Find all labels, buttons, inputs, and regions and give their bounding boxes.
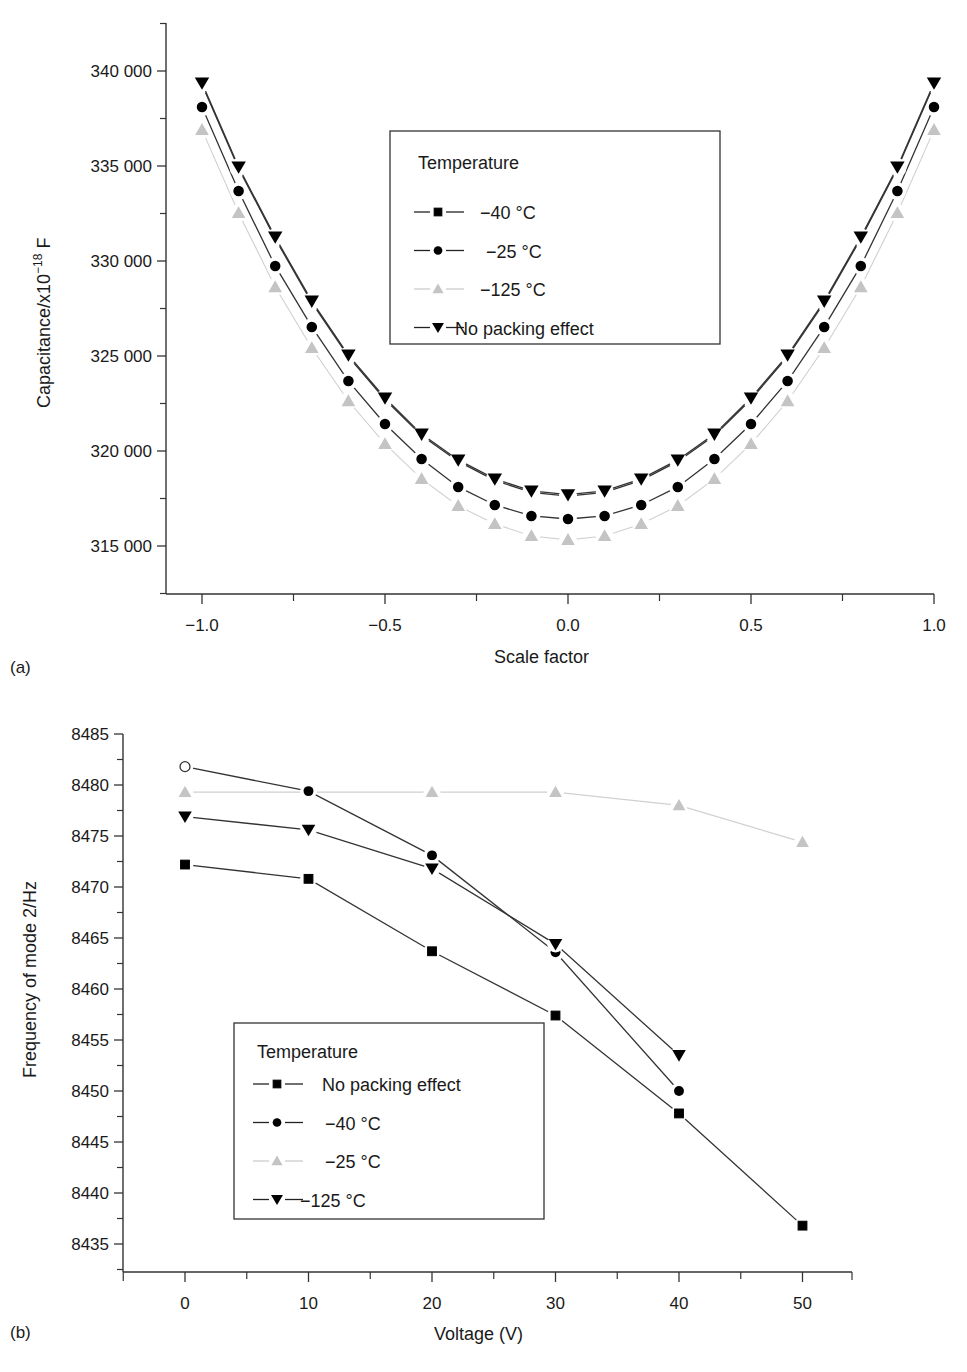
data-point-circle	[599, 511, 610, 522]
data-point-circle	[343, 376, 354, 387]
data-point-circle	[709, 454, 720, 465]
x-tick-label: 30	[546, 1294, 565, 1313]
x-tick-label: −0.5	[368, 616, 402, 635]
data-point-circle	[782, 376, 793, 387]
data-point-square	[675, 1109, 684, 1118]
data-point-circle	[307, 322, 318, 333]
data-point-circle	[490, 500, 501, 511]
x-axis-title-b: Voltage (V)	[434, 1324, 523, 1344]
data-point-circle	[526, 511, 537, 522]
data-point-circle	[636, 500, 647, 511]
y-axis-title-a: Capacitance/x10−18 F	[31, 238, 54, 408]
legend-marker-square	[434, 208, 442, 216]
y-axis-title-b: Frequency of mode 2/Hz	[20, 881, 40, 1078]
data-point-square	[798, 1221, 807, 1230]
panel-label-b: (b)	[10, 1323, 31, 1342]
data-point-circle	[197, 102, 208, 113]
y-tick-label: 315 000	[91, 537, 152, 556]
x-tick-label: 0.5	[739, 616, 763, 635]
data-point-square	[428, 947, 437, 956]
legend-label: No packing effect	[455, 319, 594, 339]
legend-marker-circle	[273, 1118, 282, 1127]
x-tick-label: 40	[670, 1294, 689, 1313]
data-point-circle	[180, 762, 190, 772]
y-tick-label: 8475	[71, 827, 109, 846]
figure: 315 000320 000325 000330 000335 000340 0…	[0, 0, 967, 1372]
data-point-circle	[304, 786, 314, 796]
legend-title: Temperature	[257, 1042, 358, 1062]
y-tick-label: 8455	[71, 1031, 109, 1050]
y-tick-label: 330 000	[91, 252, 152, 271]
legend-label: −25 °C	[486, 242, 542, 262]
x-tick-label: 50	[793, 1294, 812, 1313]
legend-marker-circle	[434, 246, 443, 255]
legend-label: −40 °C	[480, 203, 536, 223]
y-tick-label: 8480	[71, 776, 109, 795]
panel-label-a: (a)	[10, 658, 31, 677]
series-triangle-up	[177, 784, 811, 851]
data-point-circle	[427, 850, 437, 860]
data-point-circle	[563, 514, 574, 525]
data-point-circle	[892, 186, 903, 197]
data-point-circle	[416, 454, 427, 465]
chart-panel-b: 8435844084458450845584608465847084758480…	[10, 725, 852, 1344]
data-point-square	[551, 1011, 560, 1020]
y-tick-label: 325 000	[91, 347, 152, 366]
y-tick-label: 340 000	[91, 62, 152, 81]
y-tick-label: 8465	[71, 929, 109, 948]
data-point-circle	[673, 482, 684, 493]
data-point-circle	[453, 482, 464, 493]
data-point-circle	[380, 419, 391, 430]
x-tick-label: 1.0	[922, 616, 946, 635]
y-tick-label: 335 000	[91, 157, 152, 176]
legend-marker-square	[273, 1080, 281, 1088]
x-axis-title-a: Scale factor	[494, 647, 589, 667]
x-tick-label: −1.0	[185, 616, 219, 635]
data-point-square	[181, 860, 190, 869]
data-point-circle	[856, 261, 867, 272]
legend-label: −40 °C	[325, 1114, 381, 1134]
legend-label: −25 °C	[325, 1152, 381, 1172]
x-tick-label: 10	[299, 1294, 318, 1313]
series-line	[185, 792, 803, 842]
data-point-circle	[270, 261, 281, 272]
y-tick-label: 320 000	[91, 442, 152, 461]
y-tick-label: 8435	[71, 1235, 109, 1254]
y-tick-label: 8450	[71, 1082, 109, 1101]
legend-label: −125 °C	[300, 1191, 366, 1211]
legend-label: No packing effect	[322, 1075, 461, 1095]
chart-panel-a: 315 000320 000325 000330 000335 000340 0…	[10, 23, 946, 677]
x-tick-label: 0.0	[556, 616, 580, 635]
x-tick-label: 20	[423, 1294, 442, 1313]
data-point-square	[304, 874, 313, 883]
x-tick-label: 0	[180, 1294, 189, 1313]
y-tick-label: 8485	[71, 725, 109, 744]
legend-title: Temperature	[418, 153, 519, 173]
y-tick-label: 8445	[71, 1133, 109, 1152]
y-tick-label: 8440	[71, 1184, 109, 1203]
y-tick-label: 8470	[71, 878, 109, 897]
legend-label: −125 °C	[480, 280, 546, 300]
data-point-circle	[233, 186, 244, 197]
legend-a: Temperature−40 °C−25 °C−125 °CNo packing…	[390, 131, 720, 344]
data-point-circle	[929, 102, 940, 113]
data-point-circle	[819, 322, 830, 333]
legend-b: TemperatureNo packing effect−40 °C−25 °C…	[234, 1023, 544, 1219]
y-tick-label: 8460	[71, 980, 109, 999]
data-point-circle	[674, 1086, 684, 1096]
data-point-circle	[746, 419, 757, 430]
